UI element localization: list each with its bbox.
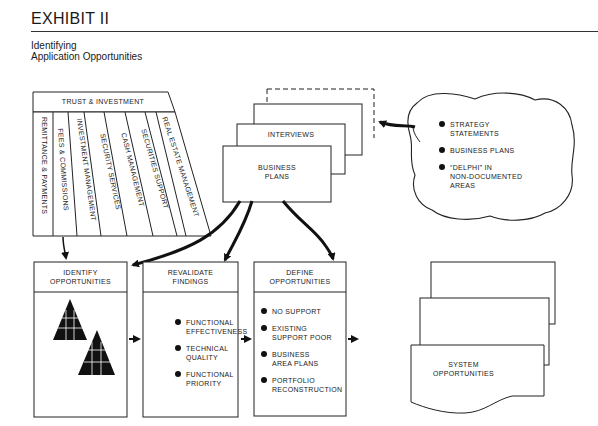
cloud-list: STRATEGY STATEMENTS BUSINESS PLANS “DELP… xyxy=(437,120,567,198)
list-item: FUNCTIONAL PRIORITY xyxy=(173,370,253,388)
trust-column-remittance: REMITTANCE & PAYMENTS xyxy=(41,117,48,214)
revalidate-findings-title: REVALIDATE FINDINGS xyxy=(143,268,238,286)
list-item: TECHNICAL QUALITY xyxy=(173,344,253,362)
system-opportunities-label: SYSTEM OPPORTUNITIES xyxy=(411,360,516,378)
list-item: FUNCTIONAL EFFECTIVENESS xyxy=(173,318,253,336)
system-opportunities-stack xyxy=(411,262,555,413)
cloud-item: STRATEGY STATEMENTS xyxy=(437,120,567,138)
list-item: BUSINESS AREA PLANS xyxy=(259,350,347,368)
define-opportunities-list: NO SUPPORT EXISTING SUPPORT POOR BUSINES… xyxy=(259,307,347,402)
list-item: PORTFOLIO RECONSTRUCTION xyxy=(259,376,347,394)
cloud-item: BUSINESS PLANS xyxy=(437,146,567,155)
list-item: NO SUPPORT xyxy=(259,307,347,316)
revalidate-findings-list: FUNCTIONAL EFFECTIVENESS TECHNICAL QUALI… xyxy=(173,318,253,396)
list-item: EXISTING SUPPORT POOR xyxy=(259,324,347,342)
interviews-label: INTERVIEWS xyxy=(237,130,345,139)
cloud-item: “DELPHI” IN NON-DOCUMENTED AREAS xyxy=(437,163,567,190)
trust-block-title: TRUST & INVESTMENT xyxy=(33,97,173,106)
identify-opportunities-title: IDENTIFY OPPORTUNITIES xyxy=(34,268,127,286)
document-stack xyxy=(223,89,374,202)
business-plans-label: BUSINESS PLANS xyxy=(223,163,331,181)
define-opportunities-title: DEFINE OPPORTUNITIES xyxy=(254,268,346,286)
